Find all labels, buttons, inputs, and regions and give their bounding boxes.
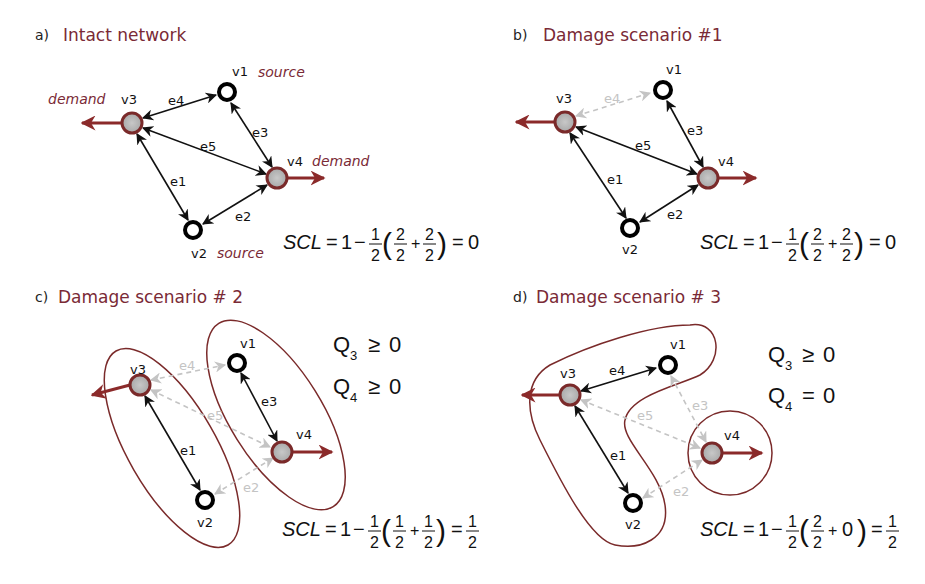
node-label-v1: v1 xyxy=(670,337,686,352)
node-v4-demand xyxy=(698,168,718,188)
svg-text:1: 1 xyxy=(370,513,379,530)
svg-text:): ) xyxy=(437,227,447,260)
svg-text:1: 1 xyxy=(788,513,797,530)
node-label-v1: v1 xyxy=(232,64,248,79)
node-v1-source xyxy=(229,355,245,371)
svg-text:0: 0 xyxy=(885,231,896,253)
edge-label-e2: e2 xyxy=(667,207,683,222)
edge-label-e2: e2 xyxy=(235,209,251,224)
edge-label-e1: e1 xyxy=(170,174,186,189)
edge-label-e3: e3 xyxy=(692,398,708,413)
scl-formula-c: SCL = 1 − 1 2 ( 1 2 + 1 2 ) = 1 2 xyxy=(282,513,479,551)
panel-b-title: Damage scenario #1 xyxy=(543,25,723,45)
svg-text:2: 2 xyxy=(788,534,797,551)
role-label-v4: demand xyxy=(312,153,370,169)
svg-text:1: 1 xyxy=(395,513,404,530)
svg-text:SCL: SCL xyxy=(700,518,739,540)
panel-b: b) Damage scenario #1 e4 e3 e5 e1 e2 v3 … xyxy=(513,25,896,264)
svg-text:=: = xyxy=(452,231,464,253)
svg-text:=: = xyxy=(325,518,337,540)
svg-text:=: = xyxy=(743,231,755,253)
node-v1-source xyxy=(219,84,235,100)
svg-text:0: 0 xyxy=(823,342,835,367)
node-v2-source xyxy=(625,495,641,511)
panel-d-letter: d) xyxy=(513,289,527,305)
panel-a-title: Intact network xyxy=(63,25,186,45)
node-v3-demand xyxy=(130,375,150,395)
svg-text:=: = xyxy=(451,518,463,540)
node-v1-source xyxy=(655,82,671,98)
node-label-v3: v3 xyxy=(556,91,572,106)
svg-text:1: 1 xyxy=(758,518,769,540)
svg-text:+: + xyxy=(411,235,420,252)
svg-text:4: 4 xyxy=(785,399,792,414)
svg-text:Q: Q xyxy=(768,342,785,367)
svg-text:2: 2 xyxy=(468,534,477,551)
svg-text:−: − xyxy=(771,231,783,253)
node-label-v2: v2 xyxy=(197,515,213,530)
svg-text:−: − xyxy=(353,518,365,540)
svg-text:+: + xyxy=(828,522,837,539)
svg-text:−: − xyxy=(771,518,783,540)
edge-label-e4: e4 xyxy=(179,358,195,373)
node-label-v4: v4 xyxy=(724,428,740,443)
edge-label-e2: e2 xyxy=(243,480,259,495)
svg-text:=: = xyxy=(871,518,883,540)
svg-text:1: 1 xyxy=(371,226,380,243)
role-label-v3: demand xyxy=(48,91,106,107)
svg-text:0: 0 xyxy=(389,332,401,357)
svg-text:2: 2 xyxy=(842,247,851,264)
svg-text:2: 2 xyxy=(371,247,380,264)
svg-text:(: ( xyxy=(799,514,809,547)
demand-arrow-v3 xyxy=(92,385,130,395)
edge-label-e3: e3 xyxy=(261,394,277,409)
edge-label-e1: e1 xyxy=(180,443,196,458)
svg-text:2: 2 xyxy=(425,226,434,243)
edge-label-e1: e1 xyxy=(607,172,623,187)
svg-text:2: 2 xyxy=(842,226,851,243)
node-v4-demand xyxy=(267,168,287,188)
panel-c: c) Damage scenario # 2 e4 e3 e5 e1 e2 v3… xyxy=(35,287,479,567)
svg-text:1: 1 xyxy=(468,513,477,530)
panel-c-title: Damage scenario # 2 xyxy=(58,287,243,307)
svg-text:3: 3 xyxy=(350,348,357,363)
scl-formula-a: SCL = 1 − 1 2 ( 2 2 + 2 2 ) = 0 xyxy=(283,226,479,264)
node-v4-demand xyxy=(272,442,292,462)
svg-text:4: 4 xyxy=(350,390,357,405)
scl-formula-d: SCL = 1 − 1 2 ( 2 2 + 0 ) = 1 2 xyxy=(700,513,899,551)
node-label-v3: v3 xyxy=(560,366,576,381)
panel-d: d) Damage scenario # 3 e4 e3 e5 e1 e2 v3… xyxy=(513,287,899,551)
svg-text:Q: Q xyxy=(333,374,350,399)
flow-condition-q4: Q 4 ≥ 0 xyxy=(333,374,401,405)
svg-text:1: 1 xyxy=(758,231,769,253)
svg-text:2: 2 xyxy=(425,247,434,264)
svg-text:(: ( xyxy=(381,514,391,547)
svg-text:1: 1 xyxy=(341,231,352,253)
svg-text:≥: ≥ xyxy=(368,374,380,399)
svg-text:0: 0 xyxy=(842,518,853,540)
svg-text:): ) xyxy=(854,227,864,260)
role-label-v2: source xyxy=(217,245,264,261)
role-label-v1: source xyxy=(258,64,305,80)
svg-text:1: 1 xyxy=(340,518,351,540)
node-label-v4: v4 xyxy=(287,154,303,169)
edge-label-e5: e5 xyxy=(637,408,653,423)
node-v3-demand xyxy=(555,112,575,132)
edge-label-e5: e5 xyxy=(207,408,223,423)
network-damage-diagram: a) Intact network e4 e3 e5 e1 e2 v3 v1 v… xyxy=(0,0,925,584)
svg-text:2: 2 xyxy=(813,513,822,530)
svg-text:≥: ≥ xyxy=(802,342,814,367)
edge-label-e5: e5 xyxy=(200,139,216,154)
svg-text:SCL: SCL xyxy=(700,231,739,253)
edge-label-e4: e4 xyxy=(609,363,625,378)
svg-text:=: = xyxy=(802,383,815,408)
svg-text:0: 0 xyxy=(823,383,835,408)
svg-text:SCL: SCL xyxy=(283,231,322,253)
flow-condition-q3: Q 3 ≥ 0 xyxy=(768,342,835,373)
svg-text:1: 1 xyxy=(788,226,797,243)
flow-condition-q3: Q 3 ≥ 0 xyxy=(333,332,401,363)
subnetwork-boundary-main xyxy=(530,325,716,547)
node-label-v4: v4 xyxy=(296,427,312,442)
svg-text:SCL: SCL xyxy=(282,518,321,540)
svg-text:+: + xyxy=(828,235,837,252)
